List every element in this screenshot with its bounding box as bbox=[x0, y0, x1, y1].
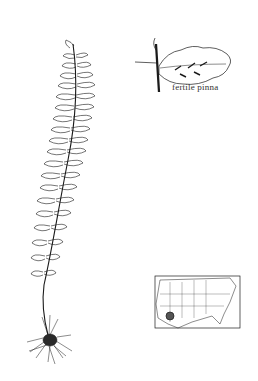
fern-roots bbox=[27, 315, 72, 364]
fern-frond bbox=[31, 40, 95, 335]
fern-drawing bbox=[0, 0, 258, 381]
range-map bbox=[155, 276, 240, 328]
botanical-plate: fertile pinna bbox=[0, 0, 258, 381]
fertile-pinna-caption: fertile pinna bbox=[172, 82, 218, 92]
